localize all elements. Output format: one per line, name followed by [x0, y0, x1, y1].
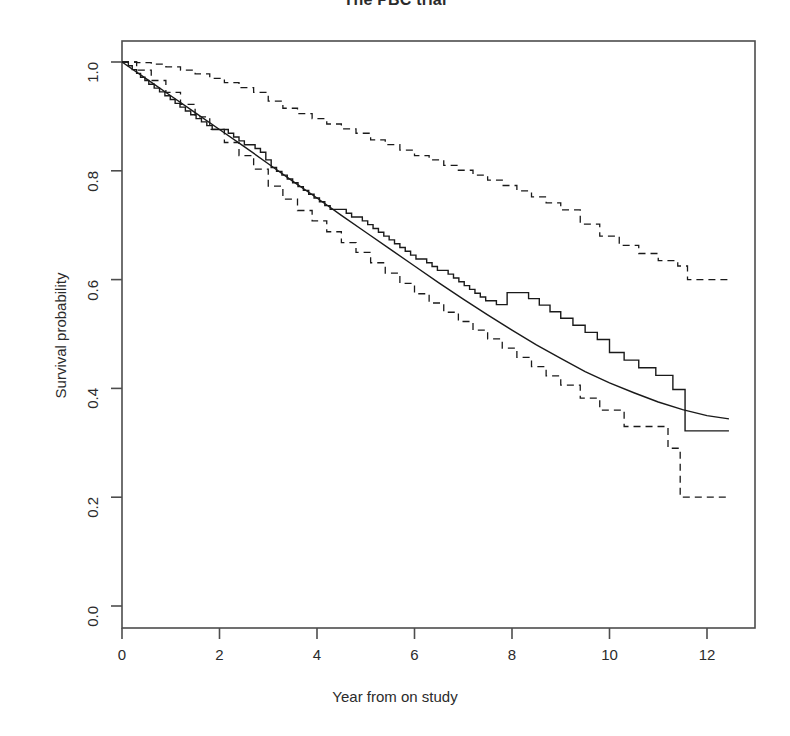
y-tick-label: 0.0 [84, 606, 101, 627]
series-path [122, 62, 729, 419]
x-tick-label: 6 [410, 646, 418, 663]
x-axis-ticks [122, 628, 707, 639]
y-axis-title: Survival probability [52, 76, 69, 596]
series-path [122, 62, 729, 497]
x-axis-title: Year from on study [0, 688, 790, 705]
series-path [122, 62, 729, 280]
plot-canvas [0, 0, 790, 736]
survival-plot-figure: The PBC trial 024681012 0.00.20.40.60.81… [0, 0, 790, 736]
data-series-layer [122, 62, 729, 497]
y-tick-label: 1.0 [84, 62, 101, 83]
x-tick-label: 8 [508, 646, 516, 663]
x-tick-label: 12 [699, 646, 716, 663]
x-tick-label: 10 [601, 646, 618, 663]
x-tick-label: 0 [118, 646, 126, 663]
y-tick-label: 0.4 [84, 388, 101, 409]
x-tick-label: 4 [313, 646, 321, 663]
y-axis-ticks [111, 62, 122, 606]
y-tick-label: 0.6 [84, 280, 101, 301]
x-tick-label: 2 [215, 646, 223, 663]
series-path [122, 62, 729, 431]
y-tick-label: 0.2 [84, 497, 101, 518]
y-tick-label: 0.8 [84, 171, 101, 192]
